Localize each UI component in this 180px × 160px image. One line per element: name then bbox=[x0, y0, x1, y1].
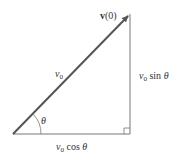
right-angle-marker bbox=[124, 128, 130, 134]
angle-arc bbox=[34, 115, 42, 135]
vertical-component-label: v0 sin θ bbox=[139, 70, 169, 83]
vector-label: v(0) bbox=[100, 10, 117, 22]
horizontal-component-label: v0 cos θ bbox=[56, 141, 87, 154]
triangle-diagram: v(0) v0 θ v0 sin θ v0 cos θ bbox=[0, 0, 180, 160]
velocity-vector-arrow bbox=[13, 16, 128, 134]
angle-label: θ bbox=[41, 115, 46, 126]
hypotenuse-label: v0 bbox=[55, 68, 63, 81]
